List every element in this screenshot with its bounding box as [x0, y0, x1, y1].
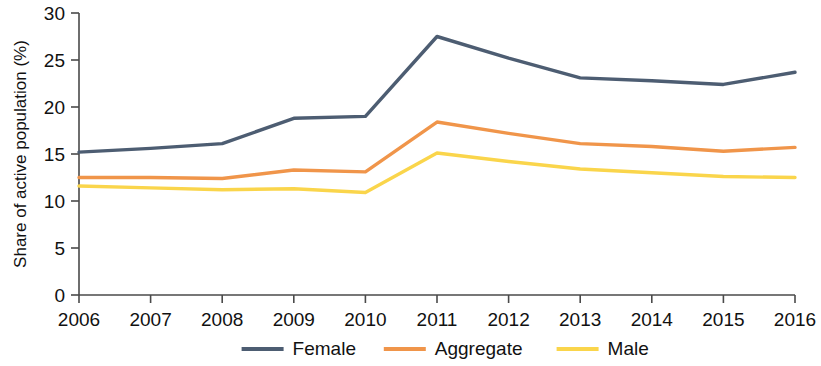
x-tick-label: 2013 — [559, 309, 601, 330]
x-tick-label: 2015 — [702, 309, 744, 330]
legend-label-female: Female — [293, 338, 356, 359]
series-lines — [79, 37, 795, 193]
y-tick-label: 5 — [54, 238, 65, 259]
y-tick-label: 0 — [54, 285, 65, 306]
y-tick-label: 20 — [44, 97, 65, 118]
y-axis-title: Share of active population (%) — [11, 40, 30, 268]
series-line-male — [79, 153, 795, 192]
x-tick-label: 2007 — [129, 309, 171, 330]
y-axis-title-text: Share of active population (%) — [11, 40, 30, 268]
x-tick-label: 2014 — [631, 309, 674, 330]
y-tick-label: 30 — [44, 3, 65, 24]
x-tick-label: 2010 — [344, 309, 386, 330]
chart-plot-area: 051015202530 200620072008200920102011201… — [0, 0, 821, 366]
x-tick-label: 2016 — [774, 309, 816, 330]
legend-label-aggregate: Aggregate — [435, 338, 523, 359]
y-tick-label: 10 — [44, 191, 65, 212]
series-line-female — [79, 37, 795, 153]
series-line-aggregate — [79, 122, 795, 178]
x-tick-label: 2006 — [58, 309, 100, 330]
y-tick-label: 25 — [44, 50, 65, 71]
line-chart: 051015202530 200620072008200920102011201… — [0, 0, 821, 366]
x-tick-label: 2012 — [487, 309, 529, 330]
y-tick-label: 15 — [44, 144, 65, 165]
x-tick-label: 2011 — [417, 309, 458, 330]
chart-legend: FemaleAggregateMale — [242, 338, 649, 359]
legend-label-male: Male — [608, 338, 649, 359]
x-tick-label: 2009 — [273, 309, 315, 330]
y-axis: 051015202530 — [44, 3, 79, 306]
x-axis: 2006200720082009201020112012201320142015… — [58, 295, 816, 330]
x-tick-label: 2008 — [201, 309, 243, 330]
